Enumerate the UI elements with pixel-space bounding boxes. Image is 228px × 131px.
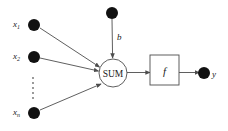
edge-xn-to-sum: [40, 84, 101, 110]
input-label-x2: x2: [13, 52, 20, 61]
output-node-y: [198, 67, 210, 79]
edge-x2-to-sum: [40, 58, 99, 71]
input-node-x1: [28, 19, 40, 31]
bias-node: [106, 7, 118, 19]
edge-x1-to-sum: [40, 28, 100, 67]
input-label-xn: xn: [13, 108, 20, 117]
vertical-ellipsis-icon: [32, 77, 34, 99]
diagram-canvas: SUM f: [0, 0, 228, 131]
sum-node-label: SUM: [103, 69, 124, 79]
input-label-x1: x1: [13, 20, 20, 29]
edge-bias-to-sum: [112, 19, 113, 58]
input-node-xn: [28, 107, 40, 119]
bias-label: b: [117, 33, 122, 42]
input-node-x2: [28, 51, 40, 63]
output-label-y: y: [212, 70, 216, 79]
neuron-diagram: SUM f x1 x2 xn b y: [0, 0, 228, 131]
